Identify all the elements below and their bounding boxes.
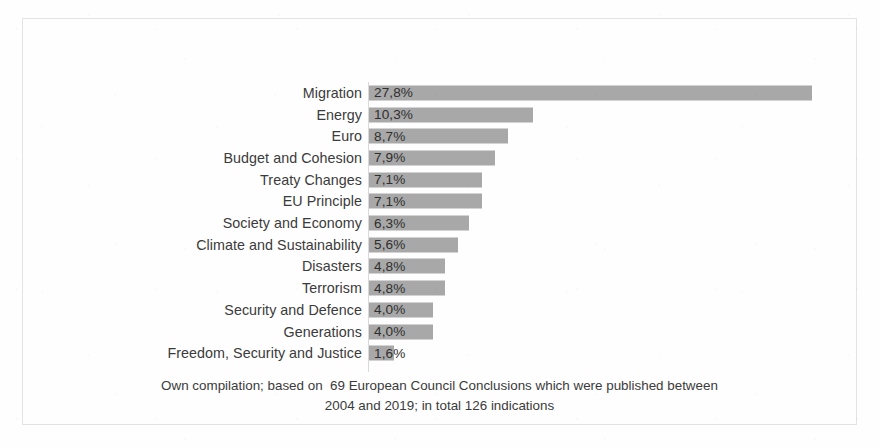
category-label: Budget and Cohesion — [224, 150, 362, 166]
category-label: Migration — [303, 85, 362, 101]
bar-wrapper: 6,3% — [369, 216, 469, 231]
bar-wrapper: 27,8% — [369, 85, 812, 100]
bar: 27,8% — [369, 85, 812, 100]
category-label: Energy — [316, 107, 362, 123]
caption-line-1: Own compilation; based on 69 European Co… — [22, 376, 857, 396]
category-label: Society and Economy — [223, 215, 362, 231]
bar: 7,1% — [369, 194, 482, 209]
category-label: Generations — [284, 324, 362, 340]
bar-wrapper: 4,0% — [369, 302, 433, 317]
bar: 5,6% — [369, 237, 458, 252]
bar-value-label: 5,6% — [374, 237, 405, 252]
category-label: EU Principle — [283, 193, 362, 209]
bar-wrapper: 10,3% — [369, 107, 533, 122]
category-label: Euro — [332, 128, 362, 144]
bar-wrapper: 4,8% — [369, 259, 445, 274]
bar-wrapper: 1,6% — [369, 346, 394, 361]
bar-wrapper: 4,8% — [369, 281, 445, 296]
bar-value-label: 27,8% — [374, 85, 413, 100]
bar-value-label: 7,1% — [374, 194, 405, 209]
bar-value-label: 7,1% — [374, 172, 405, 187]
bar-value-label: 10,3% — [374, 107, 413, 122]
bar-row: Generations4,0% — [22, 321, 857, 343]
bar-wrapper: 8,7% — [369, 129, 508, 144]
category-label: Disasters — [302, 258, 362, 274]
bar: 8,7% — [369, 129, 508, 144]
bar-row: Climate and Sustainability5,6% — [22, 234, 857, 256]
bar-wrapper: 5,6% — [369, 237, 458, 252]
bar-row: Security and Defence4,0% — [22, 299, 857, 321]
category-label: Treaty Changes — [260, 172, 362, 188]
bar: 4,0% — [369, 302, 433, 317]
bar-value-label: 4,8% — [374, 259, 405, 274]
bar-value-label: 6,3% — [374, 216, 405, 231]
bar-value-label: 4,0% — [374, 324, 405, 339]
chart-caption: Own compilation; based on 69 European Co… — [22, 376, 857, 416]
category-label: Freedom, Security and Justice — [167, 345, 362, 361]
plot-area: Migration27,8%Energy10,3%Euro8,7%Budget … — [22, 18, 857, 425]
bar-row: Budget and Cohesion7,9% — [22, 147, 857, 169]
bar-row: Society and Economy6,3% — [22, 212, 857, 234]
bar: 1,6% — [369, 346, 394, 361]
bar: 6,3% — [369, 216, 469, 231]
bar: 4,8% — [369, 281, 445, 296]
bar-wrapper: 4,0% — [369, 324, 433, 339]
bar-value-label: 4,8% — [374, 281, 405, 296]
bar-row: Terrorism4,8% — [22, 277, 857, 299]
bar-wrapper: 7,9% — [369, 150, 495, 165]
bar-row: Disasters4,8% — [22, 256, 857, 278]
bar-row: Euro8,7% — [22, 125, 857, 147]
bar: 4,0% — [369, 324, 433, 339]
bar-value-label: 8,7% — [374, 129, 405, 144]
bar: 7,9% — [369, 150, 495, 165]
bar-row: Migration27,8% — [22, 82, 857, 104]
bar: 10,3% — [369, 107, 533, 122]
category-label: Security and Defence — [224, 302, 362, 318]
bar: 7,1% — [369, 172, 482, 187]
category-label: Terrorism — [302, 280, 362, 296]
figure-container: Migration27,8%Energy10,3%Euro8,7%Budget … — [0, 0, 880, 448]
bar-row: EU Principle7,1% — [22, 191, 857, 213]
bar-row: Energy10,3% — [22, 104, 857, 126]
bar-row: Freedom, Security and Justice1,6% — [22, 342, 857, 364]
bar-wrapper: 7,1% — [369, 194, 482, 209]
bar-value-label: 7,9% — [374, 150, 405, 165]
category-label: Climate and Sustainability — [196, 237, 362, 253]
bar: 4,8% — [369, 259, 445, 274]
bar-row: Treaty Changes7,1% — [22, 169, 857, 191]
bar-value-label: 4,0% — [374, 302, 405, 317]
caption-line-2: 2004 and 2019; in total 126 indications — [22, 396, 857, 416]
bar-wrapper: 7,1% — [369, 172, 482, 187]
bar-value-label: 1,6% — [374, 346, 405, 361]
